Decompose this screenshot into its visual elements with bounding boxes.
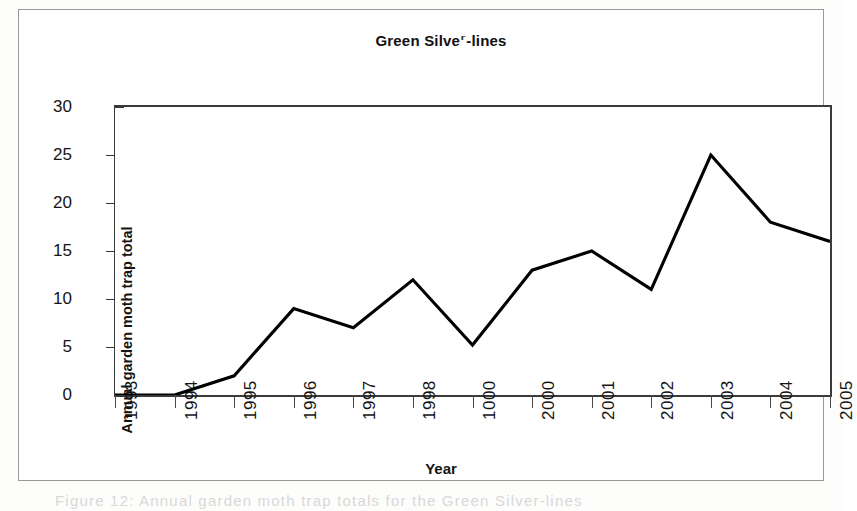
degraded-r-glyph: r (461, 34, 466, 41)
y-tick-mark (106, 251, 115, 252)
series-line-annual-garden-moth-trap-total (115, 155, 830, 395)
x-tick-mark (532, 395, 533, 408)
line-series-plot (115, 107, 830, 395)
x-tick-mark (711, 395, 712, 408)
chart-title-text-suffix: -lines (466, 32, 506, 49)
x-tick-mark (175, 395, 176, 408)
x-tick-mark (413, 395, 414, 408)
x-tick-label: 2005 (837, 380, 857, 420)
x-tick-mark (294, 395, 295, 408)
y-tick-label: 5 (12, 338, 72, 355)
y-tick-label: 10 (12, 290, 72, 307)
y-tick-label: 15 (12, 242, 72, 259)
x-tick-mark (473, 395, 474, 408)
y-tick-label: 20 (12, 194, 72, 211)
page-caption: Figure 12: Annual garden moth trap total… (55, 492, 815, 509)
chart-title: Green Silver-lines Green Silver-lines (19, 32, 857, 49)
y-tick-label: 0 (12, 386, 72, 403)
x-tick-mark (651, 395, 652, 408)
y-tick-mark (106, 347, 115, 348)
y-tick-label: 25 (12, 146, 72, 163)
x-tick-mark (353, 395, 354, 408)
chart-title-text-prefix: Green Silve (375, 32, 460, 49)
y-tick-mark (106, 203, 115, 204)
x-tick-mark (592, 395, 593, 408)
y-tick-label: 30 (12, 98, 72, 115)
x-axis-title: Year (19, 460, 857, 477)
x-tick-mark (770, 395, 771, 408)
x-tick-mark (234, 395, 235, 408)
y-tick-mark (106, 155, 115, 156)
plot-area: Annual garden moth trap total 0510152025… (114, 105, 832, 397)
y-tick-mark (106, 299, 115, 300)
figure-frame: Green Silver-lines Green Silver-lines An… (18, 9, 824, 481)
x-tick-mark (115, 395, 116, 408)
x-tick-mark (830, 395, 831, 408)
